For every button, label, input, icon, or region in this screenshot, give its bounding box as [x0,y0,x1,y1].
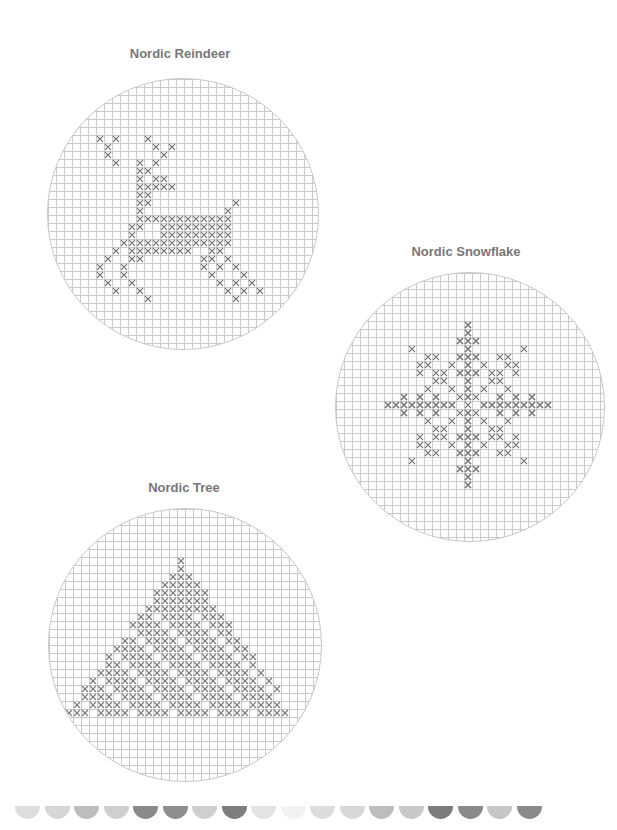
tree-title: Nordic Tree [148,480,220,495]
tree-pattern-grid [48,508,322,782]
border-scallop [163,806,188,819]
reindeer-stitches [48,79,319,350]
snowflake-title: Nordic Snowflake [411,244,520,259]
reindeer-title: Nordic Reindeer [130,46,230,61]
border-scallop [251,806,276,819]
border-scallop [399,806,424,819]
border-scallop [487,806,512,819]
border-scallop [104,806,129,819]
snowflake-pattern-grid [335,272,605,542]
border-scallop [517,806,542,819]
border-scallop [133,806,158,819]
scalloped-border [0,806,617,830]
border-scallop [222,806,247,819]
border-scallop [310,806,335,819]
border-scallop [340,806,365,819]
border-scallop [74,806,99,819]
reindeer-pattern-grid [47,78,319,350]
border-scallop [281,806,306,819]
border-scallop [15,806,40,819]
border-scallop [369,806,394,819]
border-scallop [192,806,217,819]
snowflake-stitches [336,273,605,542]
border-scallop [428,806,453,819]
tree-stitches [49,509,322,782]
border-scallop [45,806,70,819]
border-scallop [458,806,483,819]
